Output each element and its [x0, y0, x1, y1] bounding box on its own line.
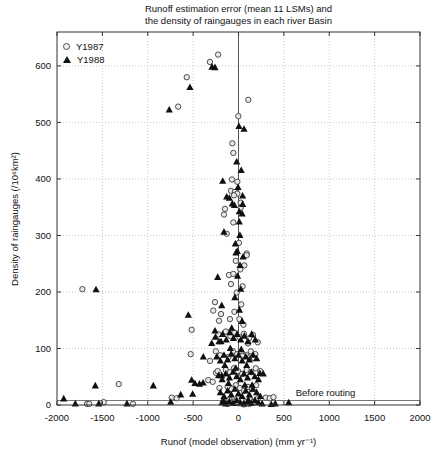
y1987-point — [235, 179, 240, 184]
legend-label-y1987: Y1987 — [76, 41, 103, 52]
legend-label-y1988: Y1988 — [77, 54, 104, 65]
y1987-point — [216, 318, 221, 323]
y1987-point — [271, 394, 276, 399]
x-tick-label: -2000 — [45, 412, 69, 423]
y1987-point — [189, 327, 194, 332]
triangle-marker-icon — [63, 56, 71, 63]
chart: Runoff estimation error (mean 11 LSMs) a… — [0, 0, 434, 458]
y1987-point — [215, 368, 220, 373]
y1987-point — [215, 52, 220, 57]
y1987-point — [229, 177, 234, 182]
y1988-point — [235, 122, 242, 129]
y-tick-label: 500 — [35, 117, 51, 128]
y1987-point — [169, 395, 174, 400]
y1988-point — [236, 218, 243, 225]
y1988-point — [227, 344, 234, 351]
y1988-point — [285, 399, 292, 406]
y-tick-label: 200 — [35, 286, 51, 297]
y1988-point — [186, 83, 193, 90]
y1987-point — [217, 385, 222, 390]
x-tick-label: 500 — [276, 412, 292, 423]
y1987-point — [231, 150, 236, 155]
y1987-point — [116, 381, 121, 386]
y-tick-label: 600 — [35, 60, 51, 71]
y1987-point — [231, 220, 236, 225]
y1988-point — [228, 324, 235, 331]
y1987-point — [228, 281, 233, 286]
y-axis-label-text: Density of raingauges (/10⁶km²) — [9, 152, 20, 286]
legend: Y1987 Y1988 — [63, 40, 104, 66]
y1987-point — [230, 141, 235, 146]
y1987-point — [212, 299, 217, 304]
y1988-point — [214, 273, 221, 280]
y-tick-label: 300 — [35, 230, 51, 241]
y1987-point — [236, 114, 241, 119]
x-axis-label: Runof (model observation) (mm yr⁻¹) — [57, 436, 420, 447]
y1987-point — [101, 399, 106, 404]
y1987-point — [246, 97, 251, 102]
y1988-point — [200, 353, 207, 360]
x-tick-label: 1500 — [364, 412, 385, 423]
y1987-point — [207, 358, 212, 363]
x-tick-label: -500 — [184, 412, 203, 423]
y1988-point — [92, 286, 99, 293]
y1987-point — [227, 316, 232, 321]
x-tick-label: -1000 — [136, 412, 160, 423]
scatter-plot: -2000-1500-1000-500050010001500200001002… — [0, 0, 434, 458]
y-tick-label: 0 — [46, 399, 51, 410]
y-tick-label: 400 — [35, 173, 51, 184]
x-tick-label: 1000 — [319, 412, 340, 423]
y1987-point — [233, 258, 238, 263]
y1987-point — [213, 349, 218, 354]
y1987-point — [222, 206, 227, 211]
annotation-before-routing: Before routing — [296, 388, 356, 398]
y-tick-label: 100 — [35, 343, 51, 354]
y1988-point — [233, 158, 240, 165]
y1988-point — [92, 382, 99, 389]
y1988-point — [189, 390, 196, 397]
y1987-point — [87, 401, 92, 406]
legend-item-y1987: Y1987 — [63, 40, 104, 53]
y1987-point — [175, 104, 180, 109]
x-tick-label: 2000 — [409, 412, 430, 423]
y1987-point — [218, 311, 223, 316]
y1987-point — [188, 351, 193, 356]
y1987-point — [221, 212, 226, 217]
y1988-point — [166, 106, 173, 113]
y1988-point — [236, 231, 243, 238]
x-tick-label: -1500 — [90, 412, 114, 423]
y1988-point — [225, 380, 232, 387]
y1987-point — [184, 75, 189, 80]
circle-marker-icon — [63, 43, 70, 50]
y1988-point — [177, 391, 184, 398]
y1988-point — [234, 183, 241, 190]
y1987-point — [210, 379, 215, 384]
y1988-point — [219, 177, 226, 184]
y1987-point — [80, 286, 85, 291]
y1988-point — [211, 327, 218, 334]
y1987-point — [211, 308, 216, 313]
legend-item-y1988: Y1988 — [63, 53, 104, 66]
y1988-point — [60, 395, 67, 402]
y1988-point — [150, 382, 157, 389]
y1987-point — [231, 271, 236, 276]
y1987-point — [231, 193, 236, 198]
x-tick-label: 0 — [236, 412, 241, 423]
y1988-point — [218, 302, 225, 309]
y1987-point — [130, 401, 135, 406]
y1988-point — [185, 311, 192, 318]
y1988-point — [208, 339, 215, 346]
